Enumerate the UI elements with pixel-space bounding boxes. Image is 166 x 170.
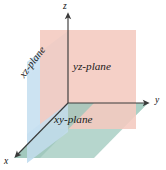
coordinate-system-figure: yz-plane xz-plane xy-plane z y x [0,0,166,170]
plane-xy-right-tab [136,103,148,115]
diagram-canvas [0,0,166,170]
